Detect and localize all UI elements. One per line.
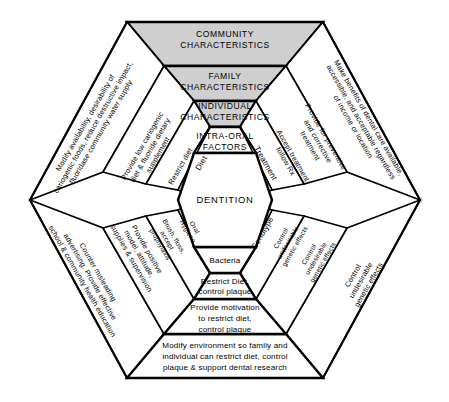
label-dentition: DENTITION [197, 194, 254, 205]
individual-bottom-line1: Restrict Diet, [201, 277, 249, 286]
label-individual-bottom: Restrict Diet, control plaque [199, 277, 252, 296]
family-top-line2: CHARACTERISTICS [180, 82, 269, 92]
family-top-line1: FAMILY [208, 71, 241, 81]
individual-top-line2: CHARACTERISTICS [180, 112, 269, 122]
individual-bottom-line2: control plaque [199, 287, 252, 296]
community-bottom-line1: Modify environment so family and [162, 341, 287, 350]
intraoral-top-line2: FACTORS [203, 142, 247, 152]
community-top-line2: CHARACTERISTICS [180, 40, 269, 50]
label-family-bottom: Provide motivation to restrict diet, con… [190, 303, 259, 334]
label-community-bottom: Modify environment so family and individ… [162, 341, 287, 372]
community-top-line1: COMMUNITY [196, 29, 254, 39]
intraoral-top-line1: INTRA-ORAL [196, 131, 254, 141]
family-bottom-line2: to restrict diet, [198, 314, 251, 323]
community-bottom-line2: individual can restrict diet, control [162, 352, 287, 361]
family-bottom-line1: Provide motivation [190, 303, 259, 312]
label-bacteria: Bacteria [210, 256, 241, 265]
community-bottom-line3: plaque & support dental research [163, 363, 287, 372]
family-bottom-line3: control plaque [199, 325, 252, 334]
label-intraoral-top: INTRA-ORAL FACTORS [196, 131, 254, 152]
individual-top-line1: INDIVIDUAL [198, 101, 252, 111]
nested-hexagon-diagram: COMMUNITY CHARACTERISTICS FAMILY CHARACT… [0, 0, 449, 402]
